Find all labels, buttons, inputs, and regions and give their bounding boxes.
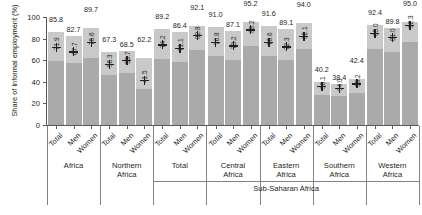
group-label-line2: Africa bbox=[100, 170, 153, 179]
x-tick-mark bbox=[357, 126, 358, 129]
bar-lower-segment bbox=[225, 60, 241, 125]
bar-lower-segment bbox=[384, 52, 400, 125]
bar-value-label: 40.2 bbox=[315, 65, 329, 74]
group-label: NorthernAfrica bbox=[100, 161, 153, 179]
bar-lower-segment bbox=[296, 49, 312, 125]
x-tick-mark bbox=[375, 126, 376, 129]
bar-lower-segment bbox=[189, 50, 205, 125]
group-label-line1: Northern bbox=[100, 161, 153, 170]
x-tick-mark bbox=[109, 126, 110, 129]
bar-value-label: 86.4 bbox=[173, 21, 187, 30]
group-label-line1: Southern bbox=[313, 161, 366, 170]
x-tick-mark bbox=[304, 126, 305, 129]
y-tick-mark bbox=[43, 125, 46, 126]
bar-lower-segment bbox=[261, 56, 277, 125]
group-label: EasternAfrica bbox=[260, 161, 313, 179]
marker-value-label: 59.7 bbox=[124, 51, 131, 64]
bar-lower-segment bbox=[243, 46, 259, 125]
bar-lower-segment bbox=[208, 56, 224, 125]
bar-value-label: 92.4 bbox=[368, 8, 382, 17]
bar bbox=[243, 22, 259, 125]
group-label-line2: Africa bbox=[206, 170, 259, 179]
supergroup-label: Sub-Saharan Africa bbox=[153, 184, 419, 193]
x-tick-mark bbox=[56, 126, 57, 129]
x-tick-mark bbox=[233, 126, 234, 129]
x-tick-mark bbox=[91, 126, 92, 129]
x-tick-mark bbox=[251, 126, 252, 129]
group-label-line1: Eastern bbox=[260, 161, 313, 170]
marker-value-label: 74.2 bbox=[159, 35, 166, 48]
bar-value-label: 42.4 bbox=[350, 56, 364, 65]
marker-value-label: 67.7 bbox=[71, 42, 78, 55]
marker-value-label: 76.6 bbox=[88, 33, 95, 46]
bar-lower-segment bbox=[314, 95, 330, 125]
marker-value-label: 71.9 bbox=[53, 38, 60, 51]
x-tick-mark bbox=[216, 126, 217, 129]
bar-value-label: 67.3 bbox=[102, 35, 116, 44]
x-tick-mark bbox=[162, 126, 163, 129]
bar-value-label: 94.0 bbox=[297, 0, 311, 9]
y-tick-mark bbox=[43, 39, 46, 40]
group-label: WesternAfrica bbox=[366, 161, 419, 179]
marker-value-label: 82.1 bbox=[301, 27, 308, 40]
bar-lower-segment bbox=[101, 75, 117, 125]
x-tick-mark bbox=[392, 126, 393, 129]
chart-container: Share of informal employment (%) 0204060… bbox=[0, 0, 422, 215]
x-tick-mark bbox=[144, 126, 145, 129]
group-label-line2: Africa bbox=[260, 170, 313, 179]
bar-lower-segment bbox=[154, 59, 170, 125]
bar-lower-segment bbox=[136, 89, 152, 125]
group-label: Africa bbox=[47, 161, 100, 170]
bar-lower-segment bbox=[83, 58, 99, 125]
group-label-line1: Western bbox=[366, 161, 419, 170]
bar bbox=[189, 26, 205, 125]
marker-value-label: 56.3 bbox=[106, 55, 113, 68]
bar-value-label: 89.1 bbox=[279, 18, 293, 27]
bar-value-label: 68.5 bbox=[120, 40, 134, 49]
marker-value-label: 85.0 bbox=[372, 24, 379, 37]
bar bbox=[136, 58, 152, 125]
marker-value-label: 88.2 bbox=[248, 20, 255, 33]
bar-value-label: 89.2 bbox=[155, 12, 169, 21]
group-label-line2: Africa bbox=[366, 170, 419, 179]
marker-value-label: 76.6 bbox=[266, 33, 273, 46]
x-tick-mark bbox=[127, 126, 128, 129]
bar-value-label: 82.7 bbox=[67, 25, 81, 34]
y-tick-mark bbox=[43, 60, 46, 61]
marker-value-label: 73.2 bbox=[230, 36, 237, 49]
group-separator bbox=[419, 126, 420, 205]
y-tick-label: 60 bbox=[18, 56, 40, 65]
bar-lower-segment bbox=[349, 93, 365, 125]
bar-lower-segment bbox=[331, 96, 347, 125]
group-label: CentralAfrica bbox=[206, 161, 259, 179]
x-tick-mark bbox=[322, 126, 323, 129]
marker-value-label: 71.1 bbox=[177, 39, 184, 52]
marker-value-label: 76.8 bbox=[213, 32, 220, 45]
bar-value-label: 87.1 bbox=[226, 20, 240, 29]
y-tick-label: 20 bbox=[18, 99, 40, 108]
group-label-line2: Africa bbox=[313, 170, 366, 179]
x-tick-mark bbox=[197, 126, 198, 129]
bar-value-label: 95.2 bbox=[244, 0, 258, 8]
y-tick-mark bbox=[43, 103, 46, 104]
bar-value-label: 95.0 bbox=[403, 0, 417, 8]
y-tick-label: 0 bbox=[18, 121, 40, 130]
group-label-line1: Central bbox=[206, 161, 259, 170]
bar-value-label: 62.2 bbox=[137, 35, 151, 44]
group-label-line1: Total bbox=[153, 161, 206, 170]
x-tick-mark bbox=[74, 126, 75, 129]
bar-lower-segment bbox=[172, 62, 188, 125]
bar-lower-segment bbox=[278, 60, 294, 125]
y-tick-mark bbox=[43, 17, 46, 18]
bar-lower-segment bbox=[367, 49, 383, 125]
y-tick-label: 100 bbox=[18, 13, 40, 22]
bar-value-label: 91.6 bbox=[262, 9, 276, 18]
marker-value-label: 38.2 bbox=[354, 74, 361, 87]
bar bbox=[402, 22, 418, 125]
bar-lower-segment bbox=[48, 61, 64, 125]
bar-value-label: 89.8 bbox=[385, 17, 399, 26]
bar-value-label: 38.4 bbox=[332, 73, 346, 82]
marker-value-label: 92.3 bbox=[407, 16, 414, 29]
group-label: SouthernAfrica bbox=[313, 161, 366, 179]
plot-area: 71.985.867.782.776.689.756.367.359.768.5… bbox=[47, 17, 419, 125]
